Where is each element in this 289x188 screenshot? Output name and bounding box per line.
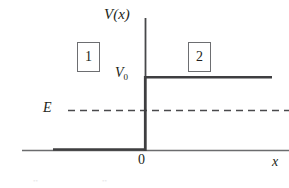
step-potential-figure: V(x) V0 E 0 x 1 2 •• •• (0, 0, 289, 188)
barrier-height-subscript: 0 (124, 72, 129, 82)
energy-level-label: E (43, 101, 52, 115)
scan-artifact-right: •• (102, 178, 107, 185)
scan-artifact-left: •• (33, 178, 38, 185)
region-label-1: 1 (77, 42, 100, 72)
barrier-height-symbol: V (115, 65, 124, 80)
barrier-height-label: V0 (115, 66, 128, 80)
x-axis-label: x (272, 155, 278, 169)
y-axis-label: V(x) (104, 7, 130, 22)
region-label-2: 2 (188, 42, 211, 72)
origin-label: 0 (138, 153, 145, 167)
